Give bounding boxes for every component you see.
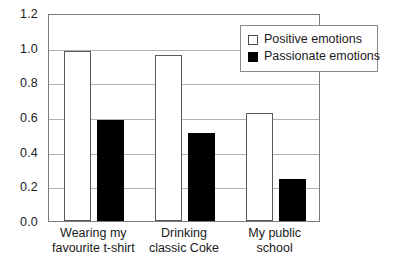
x-axis: Wearing myfavourite t-shirtDrinkingclass… (48, 226, 320, 262)
y-axis-tick: 0.0 (20, 216, 38, 229)
filled-square-swatch-icon (248, 52, 258, 62)
legend-label: Positive emotions (264, 33, 362, 46)
x-axis-label-line: My public (221, 226, 328, 241)
legend-item-passionate: Passionate emotions (248, 48, 370, 65)
open-square-swatch-icon (248, 35, 258, 45)
bar-positive (155, 55, 182, 221)
legend-item-positive: Positive emotions (248, 31, 370, 48)
bar-chart: 1.2 1.0 0.8 0.6 0.4 0.2 0.0 Wearing myfa… (0, 0, 395, 263)
y-axis-tick: 0.8 (20, 77, 38, 90)
x-axis-label: My publicschool (221, 226, 328, 256)
y-axis-tick: 1.2 (20, 8, 38, 21)
y-axis-tick: 0.2 (20, 181, 38, 194)
y-axis-tick: 0.6 (20, 112, 38, 125)
bar-group (49, 15, 140, 221)
x-axis-label-line: school (221, 241, 328, 256)
bar-positive (64, 51, 91, 221)
bar-positive (246, 113, 273, 221)
chart-legend: Positive emotions Passionate emotions (240, 25, 378, 72)
legend-label: Passionate emotions (264, 50, 380, 63)
bar-passionate (97, 120, 124, 221)
bar-passionate (188, 133, 215, 221)
bar-group (140, 15, 231, 221)
y-axis: 1.2 1.0 0.8 0.6 0.4 0.2 0.0 (0, 14, 44, 222)
y-axis-tick: 1.0 (20, 42, 38, 55)
bar-passionate (279, 179, 306, 221)
y-axis-tick: 0.4 (20, 146, 38, 159)
